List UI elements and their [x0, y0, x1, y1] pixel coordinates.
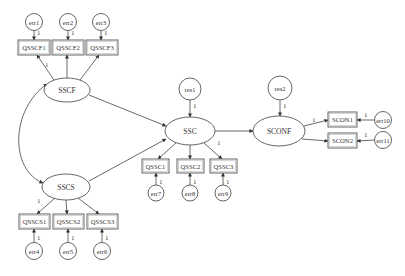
path-arrow [80, 55, 99, 80]
error-node-res2: res2 [268, 76, 292, 100]
path-coefficient: 1 [193, 178, 197, 186]
path-coefficient: 1 [226, 178, 230, 186]
node-label: SSCS [57, 183, 75, 192]
observed-node-qsscs1: QSSCS1 [19, 214, 50, 229]
latent-node-ssc: SSC [165, 117, 215, 145]
covariance-arrow-sscf-sscs [19, 84, 47, 183]
path-coefficient: 1 [71, 29, 75, 37]
node-label: SCON2 [332, 137, 353, 144]
node-label: SSC [183, 127, 196, 136]
observed-node-qsscf2: QSSCF2 [52, 40, 84, 55]
error-node-err3: err3 [93, 14, 110, 31]
path-coefficient: 1 [283, 102, 287, 110]
node-label: err7 [151, 190, 162, 197]
node-label: QSSC1 [146, 163, 166, 170]
path-arrow [158, 143, 176, 159]
observed-node-qssc2: QSSC2 [177, 159, 204, 173]
path-arrow [357, 140, 375, 141]
node-label: err2 [63, 19, 73, 26]
path-coefficient: 1 [45, 61, 49, 69]
node-label: QSSC2 [181, 163, 201, 170]
path-coefficient: 1 [71, 234, 75, 242]
observed-node-qsscf1: QSSCF1 [18, 40, 50, 55]
path-coefficient: 1 [217, 139, 221, 147]
node-label: QSSCS1 [23, 218, 46, 225]
observed-node-qssc3: QSSC3 [210, 159, 237, 173]
node-label: QSSCS2 [57, 218, 80, 225]
observed-node-qssc1: QSSC1 [142, 159, 169, 173]
path-coefficient: 1 [37, 197, 41, 205]
node-label: err4 [29, 248, 40, 255]
observed-node-scon1: SCON1 [328, 112, 357, 127]
path-coefficient: 1 [193, 102, 197, 110]
latent-variables-layer: SSCFSSCSSSCSCONF [42, 78, 305, 200]
latent-node-sscf: SSCF [44, 78, 90, 102]
node-label: res1 [185, 86, 196, 93]
path-coefficient: 1 [364, 111, 368, 119]
node-label: res2 [275, 85, 286, 92]
error-node-err10: err10 [375, 112, 392, 129]
path-arrow [78, 198, 99, 214]
path-coefficient: 1 [37, 29, 41, 37]
error-node-err9: err9 [215, 185, 231, 201]
path-arrow [304, 120, 328, 126]
latent-node-sscs: SSCS [42, 174, 90, 200]
observed-node-scon2: SCON2 [328, 133, 357, 148]
node-label: err5 [63, 248, 73, 255]
error-node-err6: err6 [94, 243, 111, 260]
node-label: SCON1 [332, 116, 353, 123]
path-arrow [66, 200, 67, 214]
node-label: SCONF [267, 127, 291, 136]
node-label: err6 [97, 248, 108, 255]
path-arrow [89, 95, 166, 126]
node-label: err9 [218, 190, 228, 197]
node-label: QSSCF3 [90, 44, 114, 51]
node-label: err11 [376, 137, 389, 144]
sem-path-diagram: SSCFSSCSSSCSCONF QSSCF1QSSCF2QSSCF3QSSCS… [0, 0, 405, 276]
latent-node-sconf: SCONF [253, 116, 305, 146]
observed-node-qsscs2: QSSCS2 [53, 214, 84, 229]
path-arrow [302, 139, 328, 141]
node-label: err8 [185, 190, 195, 197]
node-label: QSSC3 [214, 163, 234, 170]
error-node-res1: res1 [179, 78, 201, 100]
path-coefficient: 1 [105, 234, 109, 242]
error-node-err11: err11 [375, 132, 392, 149]
node-label: err1 [29, 19, 39, 26]
node-label: SSCF [58, 86, 76, 95]
path-coefficient: 1 [364, 131, 368, 139]
node-label: QSSCF2 [56, 44, 79, 51]
path-coefficient: 1 [104, 29, 108, 37]
node-label: QSSCF1 [22, 44, 45, 51]
error-node-err5: err5 [60, 243, 77, 260]
node-label: QSSCS3 [91, 218, 115, 225]
error-node-err2: err2 [60, 14, 77, 31]
error-node-err8: err8 [182, 185, 198, 201]
path-coefficient: 1 [312, 116, 316, 124]
node-label: err10 [376, 117, 390, 124]
node-label: err3 [96, 19, 106, 26]
error-node-err1: err1 [26, 14, 43, 31]
observed-node-qsscf3: QSSCF3 [86, 40, 118, 55]
error-node-err4: err4 [26, 243, 43, 260]
observed-node-qsscs3: QSSCS3 [87, 214, 118, 229]
path-coefficient: 1 [159, 178, 163, 186]
error-node-err7: err7 [148, 185, 164, 201]
path-coefficient: 1 [37, 234, 41, 242]
